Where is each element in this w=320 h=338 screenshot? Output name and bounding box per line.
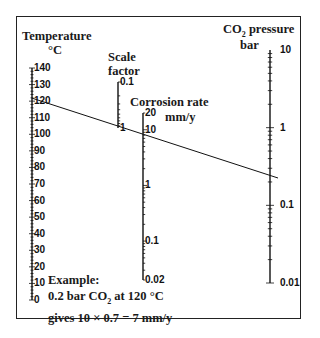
temperature-tick-label: 140 [34,63,51,73]
corrosion-rate-tick-label: 20 [145,108,156,118]
temperature-tick-label: 80 [34,162,45,172]
example-line-2: 0.2 bar CO2 at 120 °C [48,288,172,310]
temperature-tick-label: 20 [34,262,45,272]
temperature-tick-label: 60 [34,196,45,206]
temperature-tick-label: 110 [34,113,50,123]
co2-pressure-tick-label: 1 [280,123,286,133]
co2-pressure-axis-unit: bar [240,38,259,52]
temperature-tick-label: 70 [34,179,45,189]
temperature-tick-label: 40 [34,229,45,239]
temperature-tick-label: 0 [34,295,40,305]
scale-factor-tick-label: 1 [120,123,126,133]
corrosion-rate-tick-label: 1 [145,180,151,190]
temperature-tick-label: 120 [34,96,51,106]
example-heading: Example: [48,272,172,288]
corrosion-rate-axis-title: Corrosion rate [130,95,209,109]
temperature-tick-label: 30 [34,245,45,255]
scale-factor-axis-title: Scale [108,50,136,64]
example-line-3: gives 10 × 0.7 = 7 mm/y [48,310,172,326]
temperature-tick-label: 90 [34,146,45,156]
scale-factor-tick-label: 0.1 [120,77,134,87]
corrosion-rate-tick-label: 0.1 [145,236,159,246]
co2-pressure-tick-label: 0.01 [280,278,299,288]
temperature-axis-unit: °C [48,43,62,57]
co2-pressure-tick-label: 10 [280,45,291,55]
co2-pressure-tick-label: 0.1 [280,200,294,210]
temperature-tick-label: 10 [34,278,45,288]
corrosion-rate-axis-unit: mm/y [165,110,196,124]
temperature-tick-label: 100 [34,129,51,139]
temperature-tick-label: 130 [34,80,51,90]
example-annotation: Example: 0.2 bar CO2 at 120 °C gives 10 … [48,272,172,326]
corrosion-rate-tick-label: 10 [145,125,156,135]
temperature-axis-title: Temperature [22,29,91,43]
temperature-tick-label: 50 [34,212,45,222]
